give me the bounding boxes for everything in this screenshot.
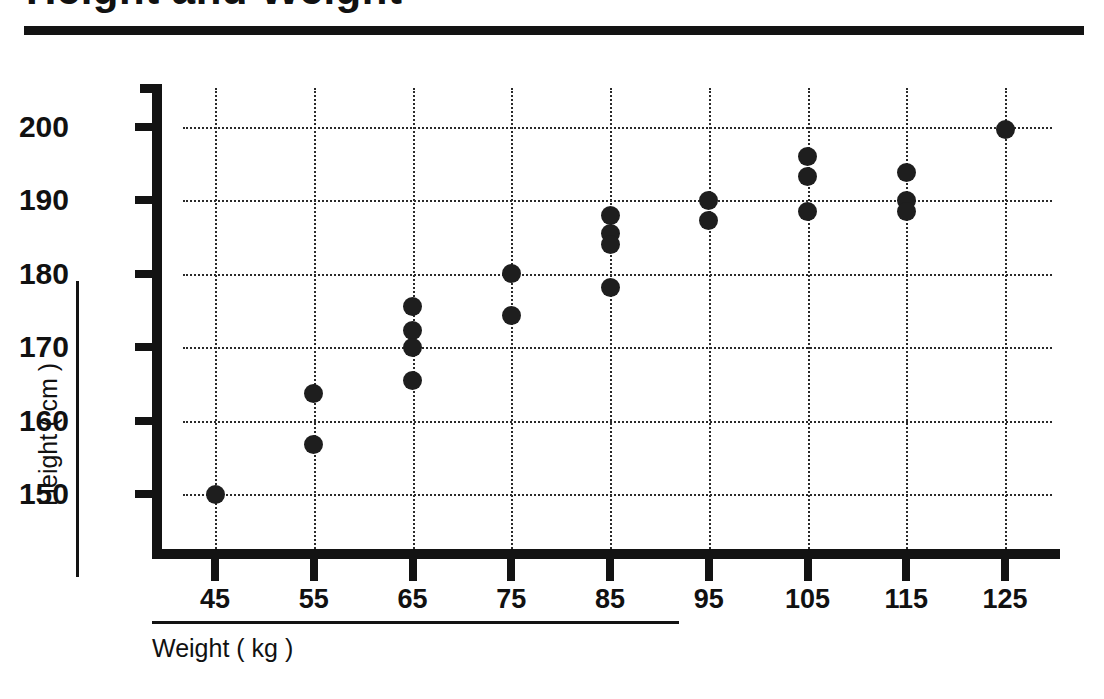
y-axis-title-rule [76, 281, 79, 577]
chart-title: Height and Weight [26, 0, 402, 14]
gridline-horizontal [183, 127, 1052, 129]
y-axis-tick [135, 123, 155, 131]
gridline-vertical [314, 88, 316, 552]
y-axis-top-cap [140, 84, 162, 93]
scatter-point [403, 297, 422, 316]
title-divider-rule [24, 26, 1084, 35]
x-axis-tick [606, 559, 614, 581]
scatter-point [304, 384, 323, 403]
scatter-point [206, 485, 225, 504]
y-axis-tick-label: 180 [19, 257, 69, 291]
x-axis-tick [705, 559, 713, 581]
gridline-horizontal [183, 274, 1052, 276]
scatter-point [601, 235, 620, 254]
scatter-point [897, 202, 916, 221]
scatter-point [798, 147, 817, 166]
x-axis-tick-label: 105 [785, 584, 830, 615]
gridline-vertical [1005, 88, 1007, 552]
x-axis-line [152, 549, 1060, 559]
scatter-point [798, 202, 817, 221]
gridline-horizontal [183, 200, 1052, 202]
x-axis-tick [804, 559, 812, 581]
y-axis-line [152, 84, 162, 558]
scatter-point [502, 264, 521, 283]
gridline-vertical [906, 88, 908, 552]
x-axis-tick [409, 559, 417, 581]
x-axis-tick [902, 559, 910, 581]
gridline-vertical [709, 88, 711, 552]
y-axis-tick-label: 200 [19, 110, 69, 144]
x-axis-tick-label: 45 [200, 584, 230, 615]
scatter-point [601, 278, 620, 297]
x-axis-tick-label: 115 [884, 584, 928, 615]
x-axis-tick-label: 95 [694, 584, 724, 615]
x-axis-tick-label: 55 [299, 584, 329, 615]
y-axis-tick [135, 343, 155, 351]
x-axis-tick [310, 559, 318, 581]
y-axis-tick [135, 196, 155, 204]
gridline-horizontal [183, 494, 1052, 496]
x-axis-tick-label: 85 [595, 584, 625, 615]
gridline-horizontal [183, 347, 1052, 349]
gridline-horizontal [183, 421, 1052, 423]
scatter-point [601, 206, 620, 225]
x-axis-title-rule [152, 621, 679, 624]
x-axis-tick [211, 559, 219, 581]
chart-title-clip: Height and Weight [0, 0, 1104, 16]
x-axis-tick-label: 75 [496, 584, 526, 615]
y-axis-tick-label: 190 [19, 183, 69, 217]
scatter-point [502, 306, 521, 325]
gridline-vertical [215, 88, 217, 552]
x-axis-tick-label: 65 [397, 584, 427, 615]
gridline-vertical [413, 88, 415, 552]
x-axis-tick [507, 559, 515, 581]
y-axis-tick [135, 270, 155, 278]
x-axis-tick-label: 125 [982, 584, 1027, 615]
scatter-point [403, 321, 422, 340]
scatter-point [699, 191, 718, 210]
scatter-point [304, 435, 323, 454]
scatter-point [403, 338, 422, 357]
y-axis-title: Height ( cm ) [34, 325, 63, 545]
y-axis-tick [135, 490, 155, 498]
x-axis-tick [1001, 559, 1009, 581]
plot-area [166, 88, 1052, 552]
scatter-point [699, 211, 718, 230]
x-axis-title: Weight ( kg ) [152, 634, 293, 663]
scatter-point [798, 167, 817, 186]
scatter-point [897, 163, 916, 182]
y-axis-tick [135, 417, 155, 425]
scatter-point [403, 371, 422, 390]
gridline-vertical [610, 88, 612, 552]
scatter-point [996, 120, 1015, 139]
